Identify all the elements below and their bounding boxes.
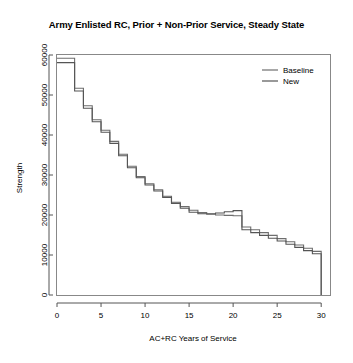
x-tick-label: 25	[273, 311, 282, 320]
plot-frame	[57, 55, 331, 296]
chart-legend: BaselineNew	[262, 66, 314, 86]
x-tick-label: 0	[55, 311, 60, 320]
x-tick-label: 5	[99, 311, 104, 320]
x-axis-label: AC+RC Years of Service	[149, 334, 237, 343]
y-tick-label: 0	[40, 292, 49, 297]
chart-root: Army Enlisted RC, Prior + Non-Prior Serv…	[0, 0, 353, 363]
x-tick-label: 15	[185, 311, 194, 320]
x-tick-label: 10	[141, 311, 150, 320]
data-series-group	[57, 58, 321, 295]
y-tick-label: 40000	[40, 123, 49, 146]
y-tick-label: 20000	[40, 203, 49, 226]
x-axis: 051015202530	[55, 303, 326, 320]
series-line-baseline	[57, 58, 321, 295]
legend-label-baseline: Baseline	[283, 66, 314, 75]
y-tick-label: 10000	[40, 243, 49, 266]
chart-plot-area: 0100002000030000400005000060000 05101520…	[0, 0, 353, 363]
legend-label-new: New	[283, 77, 299, 86]
y-axis: 0100002000030000400005000060000	[40, 43, 53, 297]
y-tick-label: 30000	[40, 163, 49, 186]
series-line-new	[57, 63, 321, 295]
x-tick-label: 20	[229, 311, 238, 320]
x-tick-label: 30	[317, 311, 326, 320]
y-tick-label: 60000	[40, 43, 49, 66]
y-tick-label: 50000	[40, 83, 49, 106]
y-axis-label: Strength	[15, 163, 24, 193]
